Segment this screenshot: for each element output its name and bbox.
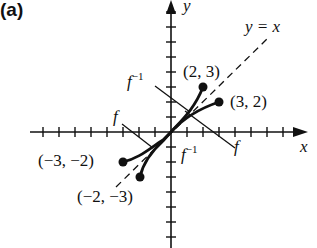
point-label-neg2-neg3: (−2, −3) — [77, 188, 133, 205]
finv-label-bottom: f−1 — [181, 144, 197, 163]
x-axis-label: x — [300, 138, 308, 155]
point-3-2 — [215, 98, 224, 107]
finv-label-top: f−1 — [127, 71, 143, 90]
f-label-left: f — [113, 108, 118, 125]
y-axis-label: y — [183, 0, 191, 14]
graph-canvas — [0, 0, 317, 248]
point-neg2-neg3 — [136, 173, 145, 182]
point-neg3-neg2 — [119, 158, 128, 167]
panel-label: (a) — [0, 0, 23, 19]
f-label-right: f — [234, 138, 239, 155]
inverse-function-diagram: (a) y x y = x f−1 f f f−1 (2, 3) (3, 2) … — [0, 0, 317, 248]
point-label-2-3: (2, 3) — [183, 63, 220, 80]
point-2-3 — [199, 83, 208, 92]
f-leader-line — [122, 124, 153, 148]
point-label-neg3-neg2: (−3, −2) — [38, 152, 94, 169]
finv-leader-line-top — [155, 86, 190, 112]
x-axis-arrow-icon — [293, 127, 308, 137]
point-label-3-2: (3, 2) — [230, 93, 267, 110]
identity-line — [116, 38, 268, 187]
identity-line-label: y = x — [245, 18, 280, 35]
